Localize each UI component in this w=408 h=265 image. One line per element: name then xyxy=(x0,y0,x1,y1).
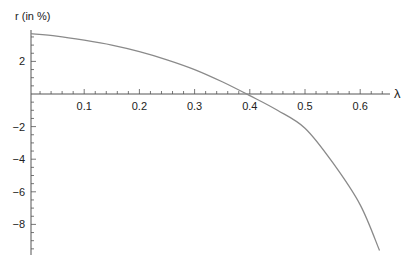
x-tick-label: 0.3 xyxy=(187,100,202,112)
y-axis-label: r (in %) xyxy=(15,10,50,22)
x-tick-label: 0.1 xyxy=(77,100,92,112)
x-tick-label: 0.2 xyxy=(132,100,147,112)
y-tick-label: −4 xyxy=(12,153,25,165)
x-tick-label: 0.5 xyxy=(297,100,312,112)
y-tick-label: 2 xyxy=(19,55,25,67)
ticks xyxy=(31,37,382,249)
x-axis-label: λ xyxy=(394,86,401,101)
y-tick-label: −8 xyxy=(12,218,25,230)
tick-labels: 0.10.20.30.40.50.62−2−4−6−8 xyxy=(12,55,367,230)
x-tick-label: 0.6 xyxy=(353,100,368,112)
line-chart: r (in %) λ 0.10.20.30.40.50.62−2−4−6−8 xyxy=(0,0,408,265)
data-curve xyxy=(31,34,380,251)
x-tick-label: 0.4 xyxy=(242,100,257,112)
axes xyxy=(31,30,390,255)
y-tick-label: −6 xyxy=(12,186,25,198)
y-tick-label: −2 xyxy=(12,121,25,133)
